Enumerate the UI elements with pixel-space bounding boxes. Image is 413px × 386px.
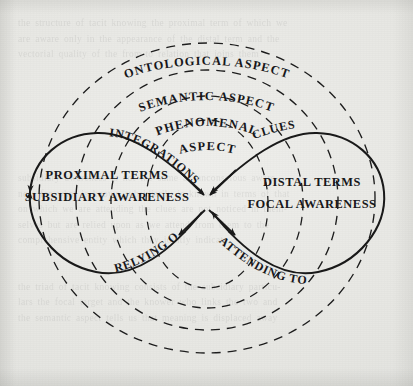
- attending-to-label: ATTENDING TO: [216, 233, 307, 287]
- scanned-diagram-page: the structure of tacit knowing the proxi…: [0, 0, 413, 386]
- relying-on-label: RELYING ON: [0, 0, 181, 275]
- proximal-terms-label: PROXIMAL TERMS: [46, 168, 169, 182]
- focal-awareness-label: FOCAL AWARENESS: [247, 197, 376, 211]
- phenomenal-aspect-label-line1: PHENOMENAL: [154, 115, 261, 138]
- tacit-knowing-diagram: ONTOLOGICAL ASPECT SEMANTIC ASPECT PHENO…: [0, 0, 413, 386]
- subsidiary-awareness-label: SUBSIDIARY AWARENESS: [25, 190, 190, 204]
- ontological-aspect-label: ONTOLOGICAL ASPECT: [122, 54, 292, 82]
- flow-labels: INTEGRATIONS CLUES RELYING ON ATTENDING …: [0, 0, 308, 287]
- arrow-attending-to-from-centre: [209, 210, 235, 235]
- arrow-relying-on-from-centre: [179, 210, 205, 235]
- arrow-clues-into-centre: [210, 170, 236, 195]
- distal-terms-label: DISTAL TERMS: [263, 175, 361, 189]
- phenomenal-aspect-label-line2: ASPECT: [177, 139, 237, 157]
